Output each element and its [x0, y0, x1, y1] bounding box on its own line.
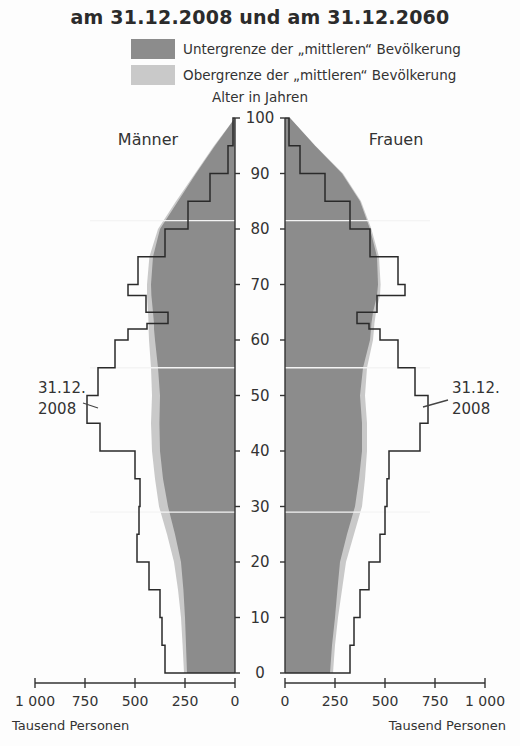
- x-axis-unit-right: Tausend Personen: [388, 718, 506, 733]
- population-pyramid-chart: 01020304050607080901001 0007505002500025…: [0, 0, 520, 746]
- x-axis-unit-left: Tausend Personen: [11, 718, 129, 733]
- annotation-right-line1: 31.12.: [452, 379, 500, 397]
- x-tick-label-right: 250: [322, 693, 349, 709]
- annotation-right-line2: 2008: [452, 400, 490, 418]
- y-tick-label: 80: [250, 220, 269, 238]
- y-tick-label: 30: [250, 498, 269, 516]
- x-tick-label-left: 500: [122, 693, 149, 709]
- x-tick-label-left: 0: [231, 693, 240, 709]
- y-tick-label: 40: [250, 442, 269, 460]
- annotation-left-line1: 31.12.: [38, 379, 86, 397]
- panel-label-frauen: Frauen: [369, 130, 424, 149]
- annotation-left-leader: [83, 403, 98, 408]
- panel-label-maenner: Männer: [118, 130, 179, 149]
- x-tick-label-left: 250: [172, 693, 199, 709]
- annotation-right-leader: [423, 400, 448, 407]
- y-tick-label: 90: [250, 165, 269, 183]
- x-tick-label-right: 750: [422, 693, 449, 709]
- annotation-left-line2: 2008: [38, 400, 76, 418]
- y-tick-label: 10: [250, 609, 269, 627]
- x-tick-label-right: 1 000: [465, 693, 505, 709]
- x-tick-label-left: 1 000: [15, 693, 55, 709]
- y-tick-label: 20: [250, 553, 269, 571]
- y-tick-label: 0: [255, 664, 265, 682]
- x-tick-label-left: 750: [72, 693, 99, 709]
- y-tick-label: 60: [250, 331, 269, 349]
- y-axis-label: Alter in Jahren: [212, 89, 308, 105]
- y-tick-label: 70: [250, 276, 269, 294]
- y-tick-label: 100: [246, 109, 275, 127]
- axes: 01020304050607080901001 0007505002500025…: [15, 109, 505, 709]
- y-tick-label: 50: [250, 387, 269, 405]
- x-tick-label-right: 0: [281, 693, 290, 709]
- x-tick-label-right: 500: [372, 693, 399, 709]
